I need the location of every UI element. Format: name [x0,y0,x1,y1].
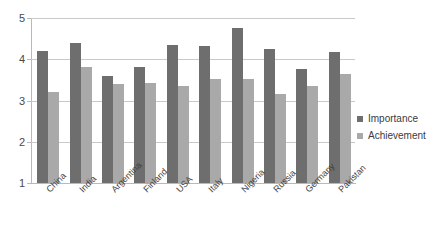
bar-group [167,18,189,183]
bar-achievement[interactable] [210,79,221,183]
bar-importance[interactable] [70,43,81,183]
bar-importance[interactable] [102,76,113,183]
bar-achievement[interactable] [275,94,286,183]
bar-achievement[interactable] [243,79,254,183]
bar-chart: 12345 ChinaIndiaArgentinaFinlandUSAItaly… [0,0,436,233]
legend-swatch-icon [357,116,363,122]
bar-group [37,18,59,183]
y-axis-tick-label: 5 [5,13,25,24]
y-axis-tick [27,18,31,19]
y-axis-tick [27,59,31,60]
bar-importance[interactable] [167,45,178,183]
bar-importance[interactable] [264,49,275,183]
legend-label: Importance [368,114,418,124]
bar-group [70,18,92,183]
y-axis-tick-label: 1 [5,178,25,189]
bar-importance[interactable] [232,28,243,183]
y-axis-tick [27,101,31,102]
bar-achievement[interactable] [178,86,189,183]
legend-item-importance[interactable]: Importance [357,110,426,127]
plot-area: 12345 [31,18,355,183]
y-axis-tick-label: 2 [5,137,25,148]
bar-group [264,18,286,183]
legend-swatch-icon [357,133,363,139]
bar-group [296,18,318,183]
bar-achievement[interactable] [340,74,351,183]
bar-group [199,18,221,183]
y-axis-tick-label: 4 [5,54,25,65]
bar-group [102,18,124,183]
bar-group [329,18,351,183]
legend-label: Achievement [368,131,426,141]
bar-importance[interactable] [296,69,307,183]
y-axis-tick [27,142,31,143]
bar-achievement[interactable] [307,86,318,183]
y-axis-tick [27,183,31,184]
legend-item-achievement[interactable]: Achievement [357,127,426,144]
y-axis-tick-label: 3 [5,96,25,107]
bar-achievement[interactable] [113,84,124,183]
bar-importance[interactable] [199,46,210,183]
bar-achievement[interactable] [145,83,156,183]
bar-importance[interactable] [37,51,48,183]
bar-achievement[interactable] [48,92,59,183]
bar-group [134,18,156,183]
bar-achievement[interactable] [81,67,92,183]
bar-group [232,18,254,183]
chart-legend: Importance Achievement [357,110,426,144]
